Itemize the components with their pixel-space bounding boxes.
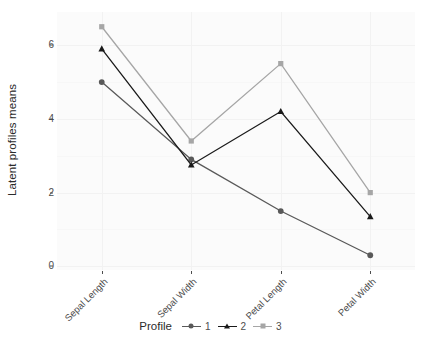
y-tick-mark [50,266,53,267]
legend-item-3[interactable]: 3 [253,320,282,332]
legend-key-circle-icon [182,320,201,332]
data-point-1-3 [367,252,373,258]
legend-key-triangle-icon [218,320,237,332]
data-point-3-0 [99,24,104,29]
y-tick-mark [50,118,53,119]
data-point-2-0 [98,45,105,51]
legend-key-square-icon [253,320,272,332]
data-point-1-2 [278,208,284,214]
plot-panel [57,12,415,270]
series-layer [57,12,415,270]
y-axis-ticks: 0246 [24,0,54,341]
data-point-3-1 [189,138,194,143]
legend-label: 2 [241,321,247,332]
legend-key-marker [260,324,265,329]
legend: Profile 123 [0,315,421,337]
x-tick-mark [370,271,371,274]
legend-key-marker [189,324,194,329]
series-line-3 [102,27,371,193]
latent-profiles-line-chart: Latent profiles means 0246 Sepal LengthS… [0,0,421,341]
legend-label: 3 [276,321,282,332]
data-point-3-3 [368,190,373,195]
x-tick-mark [191,271,192,274]
legend-key-marker [224,324,230,329]
legend-title: Profile [139,320,172,332]
x-tick-mark [102,271,103,274]
y-tick-mark [50,45,53,46]
legend-item-1[interactable]: 1 [182,320,211,332]
data-point-1-0 [99,79,105,85]
y-tick-mark [50,192,53,193]
x-tick-mark [281,271,282,274]
series-line-2 [102,49,371,217]
data-point-2-2 [277,108,284,114]
legend-label: 1 [205,321,211,332]
y-axis-title: Latent profiles means [0,0,24,280]
legend-item-2[interactable]: 2 [218,320,247,332]
data-point-3-2 [278,61,283,66]
legend-items: 123 [182,320,282,332]
y-axis-title-text: Latent profiles means [6,84,18,196]
